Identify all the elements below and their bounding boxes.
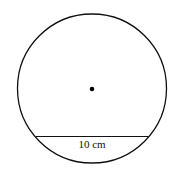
chord-label: 10 cm	[78, 138, 106, 150]
circle-diagram: 10 cm	[0, 0, 178, 178]
center-point	[90, 87, 95, 92]
